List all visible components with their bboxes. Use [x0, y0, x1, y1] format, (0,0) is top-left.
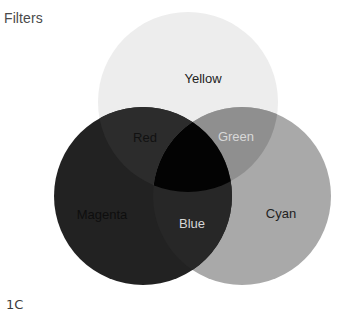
- yellow-label: Yellow: [184, 71, 222, 86]
- green-label: Green: [218, 129, 254, 144]
- red-label: Red: [133, 130, 157, 145]
- venn-diagram: Yellow Red Green Magenta Blue Cyan: [0, 0, 342, 322]
- cyan-label: Cyan: [266, 206, 296, 221]
- blue-label: Blue: [179, 216, 205, 231]
- figure-label: 1C: [6, 297, 23, 312]
- magenta-label: Magenta: [77, 207, 128, 222]
